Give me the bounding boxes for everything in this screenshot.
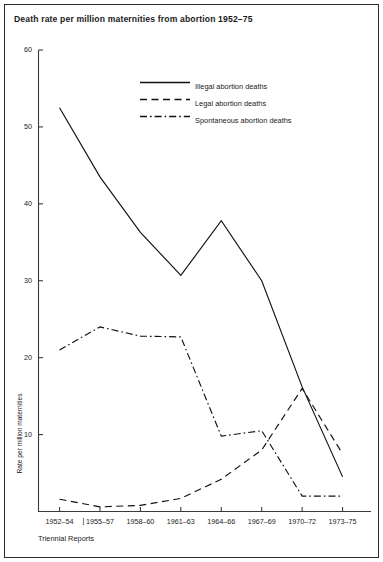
x-tick-label: 1967–69 — [240, 517, 284, 526]
legend-item-legal: Legal abortion deaths — [195, 95, 292, 112]
y-tick-label: 10 — [12, 430, 32, 439]
x-tick-label: 1973–75 — [321, 517, 365, 526]
y-tick-label: 20 — [12, 353, 32, 362]
x-tick-label: 1961–63 — [159, 517, 203, 526]
y-tick-label: 40 — [12, 199, 32, 208]
x-tick-label: 1970–72 — [280, 517, 324, 526]
y-tick-label: 60 — [12, 45, 32, 54]
y-tick-label: 50 — [12, 122, 32, 131]
series-line-1 — [60, 388, 343, 506]
chart-legend: Illegal abortion deaths Legal abortion d… — [195, 78, 292, 129]
legend-key-lines — [140, 83, 190, 117]
x-tick-label: 1958–60 — [118, 517, 162, 526]
legend-label-legal: Legal abortion deaths — [195, 99, 266, 108]
legend-item-illegal: Illegal abortion deaths — [195, 78, 292, 95]
y-tick-marks — [39, 50, 44, 435]
legend-label-spontaneous: Spontaneous abortion deaths — [195, 116, 292, 125]
data-series-layer — [60, 108, 343, 507]
legend-label-illegal: Illegal abortion deaths — [195, 82, 267, 91]
series-line-2 — [60, 327, 343, 496]
x-tick-label: 1964–66 — [199, 517, 243, 526]
legend-item-spontaneous: Spontaneous abortion deaths — [195, 112, 292, 129]
x-tick-marks — [60, 507, 343, 512]
chart-page: Death rate per million maternities from … — [0, 0, 383, 562]
x-tick-label: 1952–54 — [38, 517, 82, 526]
x-label-separator: | — [83, 516, 85, 525]
series-line-0 — [60, 108, 343, 477]
x-axis-title: Triennial Reports — [38, 534, 94, 543]
x-tick-label: 1955–57 — [78, 517, 122, 526]
y-tick-label: 30 — [12, 276, 32, 285]
plot-area — [0, 0, 383, 562]
